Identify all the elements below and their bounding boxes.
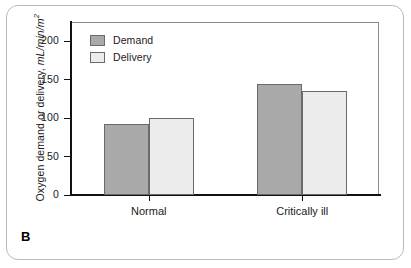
bar-delivery-critically-ill <box>302 91 347 195</box>
y-tick-label: 150 <box>41 74 59 85</box>
y-tick-mark <box>64 195 70 196</box>
bar-delivery-normal <box>149 118 194 195</box>
x-tick-label: Critically ill <box>242 205 362 217</box>
y-tick-mark <box>64 118 70 119</box>
x-tick-label: Normal <box>89 205 209 217</box>
x-tick-mark <box>302 196 303 201</box>
figure-panel: Oxygen demand or delivery, mL/min/m2 050… <box>6 5 404 260</box>
y-tick-label: 0 <box>53 189 59 200</box>
y-tick-mark <box>64 41 70 42</box>
bars-layer <box>72 22 379 195</box>
y-tick-label: 50 <box>47 151 59 162</box>
y-axis-title-units-exponent: 2 <box>32 14 41 18</box>
x-tick-mark <box>149 196 150 201</box>
y-tick-mark <box>64 156 70 157</box>
panel-letter: B <box>21 229 30 244</box>
bar-demand-normal <box>104 124 149 195</box>
y-tick-label: 100 <box>41 112 59 123</box>
y-axis-title-main: Oxygen demand or delivery, <box>34 68 46 201</box>
y-tick-mark <box>64 79 70 80</box>
bar-chart: Oxygen demand or delivery, mL/min/m2 050… <box>7 6 405 261</box>
y-tick-label: 200 <box>41 35 59 46</box>
bar-demand-critically-ill <box>257 84 302 195</box>
